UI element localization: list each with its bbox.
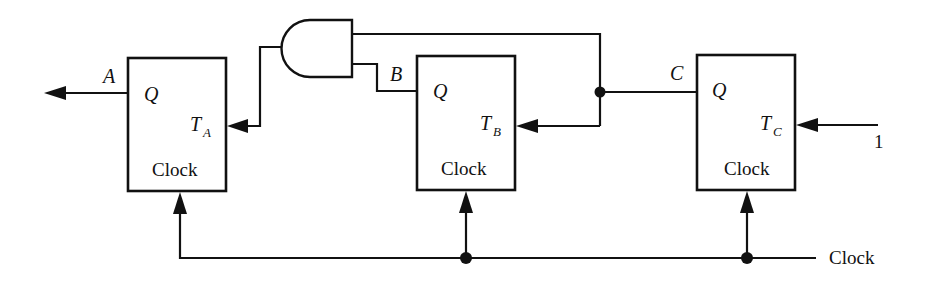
flip-flop-c: Q T C Clock	[697, 55, 795, 190]
constant-one-label: 1	[874, 131, 884, 152]
flip-flop-c-q-label: Q	[712, 79, 727, 101]
flip-flop-a: Q T A Clock	[128, 58, 226, 191]
clock-a-arrow-icon	[173, 192, 187, 214]
flip-flop-a-t-label: T	[190, 113, 203, 135]
and-gate-icon	[282, 20, 353, 77]
output-arrow-icon	[44, 86, 66, 100]
flip-flop-b-t-label: T	[480, 112, 493, 134]
output-a-wire: A	[44, 65, 128, 100]
signal-label-a: A	[101, 65, 116, 87]
signal-label-b: B	[390, 63, 402, 85]
clock-input-label: Clock	[829, 247, 875, 268]
wire-c-to-tb: C	[516, 62, 697, 133]
flip-flop-a-q-label: Q	[144, 83, 159, 105]
flip-flop-a-clock-label: Clock	[152, 159, 198, 180]
flip-flop-b-t-subscript: B	[493, 124, 501, 139]
counter-circuit-diagram: Q T A Clock A Q T B Clock Q T C Clock	[0, 0, 931, 283]
flip-flop-b-clock-label: Clock	[441, 158, 487, 179]
and-gate	[282, 20, 353, 77]
flip-flop-c-t-subscript: C	[773, 124, 782, 139]
wire-and-to-ta	[227, 47, 282, 133]
ta-input-arrow-icon	[227, 119, 248, 133]
junction-clock-b-dot	[460, 252, 472, 264]
clock-bus: Clock	[173, 191, 875, 268]
wire-b-to-and: B	[352, 63, 417, 91]
flip-flop-b: Q T B Clock	[417, 56, 515, 190]
junction-c-dot	[595, 87, 606, 98]
tb-input-arrow-icon	[516, 119, 538, 133]
junction-clock-c-dot	[741, 252, 753, 264]
signal-label-c: C	[670, 62, 684, 84]
flip-flop-a-t-subscript: A	[202, 125, 211, 140]
wire-one-to-tc: 1	[796, 118, 884, 152]
flip-flop-c-t-label: T	[760, 112, 773, 134]
flip-flop-b-q-label: Q	[433, 80, 448, 102]
tc-input-arrow-icon	[796, 118, 818, 132]
clock-b-arrow-icon	[459, 191, 473, 213]
flip-flop-c-clock-label: Clock	[724, 158, 770, 179]
clock-c-arrow-icon	[740, 191, 754, 213]
